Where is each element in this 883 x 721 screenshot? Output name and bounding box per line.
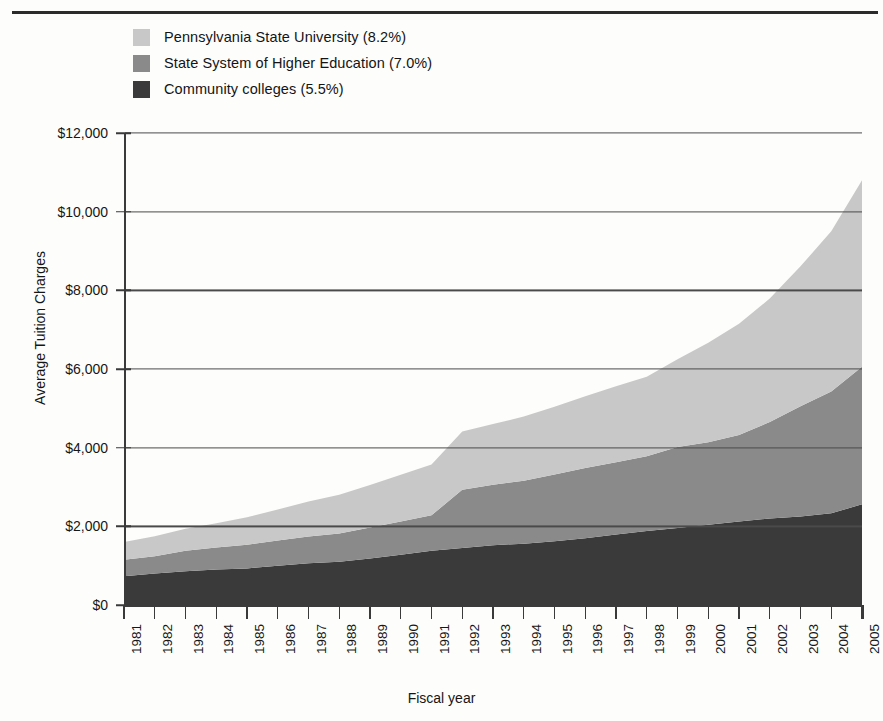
x-tick-label-1984: 1984: [221, 624, 236, 654]
x-axis-end-cap: [862, 605, 864, 619]
x-axis-line: [124, 605, 862, 607]
x-tick-label-1988: 1988: [344, 624, 359, 654]
x-tick-mark-1999: [677, 605, 678, 619]
x-tick-label-2004: 2004: [836, 624, 851, 654]
x-tick-mark-1981: [123, 605, 124, 619]
gridline-y-12000: [125, 132, 862, 133]
top-divider-rule: [12, 11, 878, 14]
x-tick-mark-1996: [585, 605, 586, 619]
x-tick-mark-1991: [431, 605, 432, 619]
legend-item-community-colleges: Community colleges (5.5%): [133, 76, 593, 102]
x-tick-mark-1982: [154, 605, 155, 619]
x-tick-mark-1990: [400, 605, 401, 619]
chart-legend: Pennsylvania State University (8.2%) Sta…: [133, 24, 593, 102]
x-tick-label-1993: 1993: [498, 624, 513, 654]
legend-label-penn-state: Pennsylvania State University (8.2%): [164, 29, 406, 45]
x-tick-label-1982: 1982: [160, 624, 175, 654]
x-axis-title: Fiscal year: [0, 690, 883, 706]
legend-label-community-colleges: Community colleges (5.5%): [164, 81, 344, 97]
x-tick-label-1991: 1991: [437, 624, 452, 654]
x-tick-mark-1983: [185, 605, 186, 619]
legend-swatch-community-colleges: [133, 81, 150, 98]
x-tick-mark-2000: [708, 605, 709, 619]
x-tick-mark-1995: [554, 605, 555, 619]
x-tick-label-1986: 1986: [283, 624, 298, 654]
legend-item-penn-state: Pennsylvania State University (8.2%): [133, 24, 593, 50]
x-tick-mark-1987: [308, 605, 309, 619]
x-tick-label-1999: 1999: [683, 624, 698, 654]
x-tick-mark-1998: [646, 605, 647, 619]
legend-swatch-penn-state: [133, 29, 150, 46]
legend-swatch-state-system: [133, 55, 150, 72]
legend-label-state-system: State System of Higher Education (7.0%): [164, 55, 432, 71]
x-tick-mark-1988: [339, 605, 340, 619]
chart-page: Pennsylvania State University (8.2%) Sta…: [0, 0, 883, 721]
gridline-y-10000: [125, 211, 862, 212]
x-tick-label-2003: 2003: [806, 624, 821, 654]
gridline-y-6000: [125, 368, 862, 369]
x-tick-label-2001: 2001: [744, 624, 759, 654]
x-tick-mark-1994: [523, 605, 524, 619]
y-axis-line: [124, 133, 126, 605]
x-tick-label-1983: 1983: [191, 624, 206, 654]
x-tick-label-1998: 1998: [652, 624, 667, 654]
x-tick-label-1981: 1981: [129, 624, 144, 654]
x-tick-label-2000: 2000: [713, 624, 728, 654]
x-tick-mark-2003: [800, 605, 801, 619]
x-tick-mark-1997: [615, 605, 616, 619]
x-tick-mark-1985: [246, 605, 247, 619]
y-axis-title-holder: Average Tuition Charges: [10, 0, 50, 721]
x-tick-label-1996: 1996: [590, 624, 605, 654]
x-tick-mark-1986: [277, 605, 278, 619]
x-tick-label-1994: 1994: [529, 624, 544, 654]
x-tick-mark-2004: [831, 605, 832, 619]
y-axis-title: Average Tuition Charges: [32, 48, 48, 608]
x-tick-label-2005: 2005: [867, 624, 882, 654]
x-tick-label-1987: 1987: [314, 624, 329, 654]
x-tick-mark-1984: [216, 605, 217, 619]
gridline-y-4000: [125, 447, 862, 448]
x-tick-label-1990: 1990: [406, 624, 421, 654]
x-tick-mark-1993: [492, 605, 493, 619]
x-tick-label-1995: 1995: [560, 624, 575, 654]
x-tick-label-1985: 1985: [252, 624, 267, 654]
x-tick-label-2002: 2002: [775, 624, 790, 654]
x-tick-mark-1992: [462, 605, 463, 619]
x-tick-label-1997: 1997: [621, 624, 636, 654]
x-tick-mark-1989: [369, 605, 370, 619]
x-tick-mark-2001: [738, 605, 739, 619]
gridline-y-2000: [125, 526, 862, 527]
x-tick-label-1989: 1989: [375, 624, 390, 654]
legend-item-state-system: State System of Higher Education (7.0%): [133, 50, 593, 76]
x-tick-label-1992: 1992: [467, 624, 482, 654]
gridline-y-8000: [125, 290, 862, 291]
x-tick-mark-2002: [769, 605, 770, 619]
